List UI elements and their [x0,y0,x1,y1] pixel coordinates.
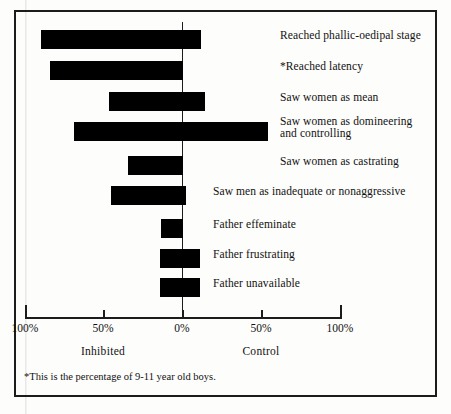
bar-segment [41,30,201,49]
axis-tick-mark [103,310,105,319]
bar-category-label: Saw women as domineering and controlling [280,115,412,140]
bar-category-label: Father unavailable [213,277,300,289]
axis-tick-label: 0% [174,322,189,334]
axis-tick-mark [25,305,27,319]
bar-row: Father frustrating [0,245,451,275]
chart-footnote: *This is the percentage of 9-11 year old… [24,371,216,382]
axis-tick-mark [182,310,184,319]
bar-category-label: Father effeminate [213,218,296,230]
axis-tick-mark [261,310,263,319]
bar-row: Saw women as castrating [0,152,451,182]
bar-category-label: Father frustrating [213,248,295,260]
bar-segment [50,61,183,80]
bar-category-label: Saw men as inadequate or nonaggressive [213,185,406,197]
bar-row: Father unavailable [0,274,451,304]
bar-segment [160,249,200,268]
bar-segment [74,122,268,141]
bar-row: Saw women as domineering and controlling [0,118,451,148]
bar-segment [111,186,186,205]
bar-category-label: *Reached latency [280,60,363,72]
axis-tick-label: 50% [92,322,113,334]
axis-tick-mark [340,305,342,319]
axis-tick-label: 50% [250,322,271,334]
bar-segment [109,92,205,111]
bar-row: Saw men as inadequate or nonaggressive [0,182,451,212]
bar-segment [128,156,183,175]
bar-row: *Reached latency [0,57,451,87]
bar-row: Reached phallic-oedipal stage [0,26,451,56]
bar-row: Father effeminate [0,215,451,245]
axis-tick-label: 100% [12,322,39,334]
axis-group-label: Control [242,345,279,357]
bar-segment [161,219,183,238]
bar-category-label: Reached phallic-oedipal stage [280,29,421,41]
bar-category-label: Saw women as mean [280,91,378,103]
axis-tick-label: 100% [327,322,354,334]
bar-segment [160,278,200,297]
bar-row: Saw women as mean [0,88,451,118]
axis-group-label: Inhibited [81,345,125,357]
bar-category-label: Saw women as castrating [280,155,399,167]
diverging-bar-chart: Reached phallic-oedipal stage*Reached la… [0,0,451,414]
